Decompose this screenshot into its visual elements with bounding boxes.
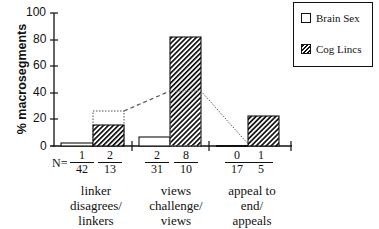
legend-item-brain-sex: Brain Sex <box>301 12 360 24</box>
n-fraction: 15 <box>249 149 273 176</box>
hatched-swatch-icon <box>301 44 311 54</box>
legend: Brain Sex Cog Lincs <box>293 2 373 67</box>
y-tick-label-80: 80 <box>33 32 46 46</box>
n-fraction: 231 <box>145 149 169 176</box>
legend-item-cog-lincs: Cog Lincs <box>301 43 362 55</box>
category-label-3: appeal toend/appeals <box>202 183 302 228</box>
dashed-connector <box>124 91 170 111</box>
y-axis-title: % macrosegments <box>15 19 29 139</box>
y-tick-label-40: 40 <box>33 85 46 99</box>
n-fraction: 213 <box>98 149 122 176</box>
y-tick-label-100: 100 <box>26 5 46 19</box>
n-fraction: 142 <box>70 149 94 176</box>
y-tick-label-0: 0 <box>40 139 47 153</box>
bar-cog-lincs-group1 <box>93 125 124 146</box>
bar-brain-sex-group2 <box>139 137 170 146</box>
n-fraction: 810 <box>174 149 198 176</box>
white-swatch-icon <box>301 13 311 23</box>
y-tick-label-20: 20 <box>33 111 46 125</box>
dotted-connector <box>201 91 248 144</box>
y-tick-label-60: 60 <box>33 58 46 72</box>
n-prefix: N= <box>52 156 67 171</box>
bar-cog-lincs-group3 <box>248 116 279 146</box>
n-fraction: 017 <box>225 149 249 176</box>
bar-brain-sex-group1 <box>61 143 93 146</box>
